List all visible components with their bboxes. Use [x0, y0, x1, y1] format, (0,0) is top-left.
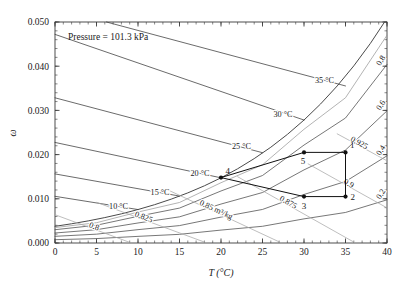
curve-label-25C: 25 °C	[232, 142, 252, 151]
curve-label-30C: 30 °C	[273, 110, 293, 119]
curve-rh-0.4	[55, 156, 387, 237]
curve-label-10C: 10 °C	[109, 202, 129, 211]
curve-rh-0.8	[55, 64, 387, 229]
psychrometric-chart: 0.80.80.8250.8250.85 m³/kg0.85 m³/kg0.87…	[0, 0, 406, 284]
x-tick-label: 35	[341, 247, 351, 257]
y-axis-title: ω	[7, 129, 18, 136]
x-tick-label: 25	[258, 247, 268, 257]
x-tick-label: 20	[216, 247, 226, 257]
x-tick-label: 0	[53, 247, 58, 257]
state-point-2	[343, 194, 347, 198]
state-point-5	[302, 150, 306, 154]
x-tick-label: 10	[133, 247, 143, 257]
curve-wetbulb-30	[55, 34, 304, 120]
y-tick-label: 0.020	[28, 150, 50, 160]
curve-volume-0.875	[238, 177, 356, 243]
x-tick-label: 40	[382, 247, 392, 257]
y-tick-label: 0.000	[28, 238, 50, 248]
y-tick-label: 0.050	[28, 17, 50, 27]
x-tick-label: 30	[299, 247, 309, 257]
curve-label-35C: 35 °C	[315, 76, 335, 85]
curve-label-0.6: 0.6	[374, 98, 387, 111]
chart-canvas: 0.80.80.8250.8250.85 m³/kg0.85 m³/kg0.87…	[0, 0, 406, 284]
volume-label-volume-0.9: 0.9	[342, 177, 355, 190]
curve-label-20C: 20 °C	[190, 169, 210, 178]
y-tick-label: 0.030	[28, 106, 50, 116]
process-4-to-5	[221, 152, 304, 177]
x-tick-label: 5	[94, 247, 99, 257]
y-tick-label: 0.040	[28, 62, 50, 72]
state-point-label-4: 4	[226, 166, 231, 176]
state-point-1	[343, 150, 347, 154]
tick-labels: 05101520253035400.0000.0100.0200.0300.04…	[28, 17, 392, 257]
x-axis-title: T (°C)	[208, 267, 234, 279]
curve-rh-0.925	[55, 35, 387, 227]
state-point-3	[302, 194, 306, 198]
y-tick-label: 0.010	[28, 194, 50, 204]
state-point-4	[219, 175, 223, 179]
state-point-label-1: 1	[350, 140, 355, 150]
curve-label-0.8: 0.8	[374, 54, 387, 67]
chart-curves: 0.80.80.8250.8250.85 m³/kg0.85 m³/kg0.87…	[55, 22, 387, 243]
curve-label-15C: 15 °C	[151, 188, 171, 197]
state-point-label-3: 3	[302, 201, 307, 211]
state-point-label-5: 5	[301, 156, 306, 166]
process-3-to-4	[221, 178, 304, 197]
x-tick-label: 15	[175, 247, 185, 257]
state-point-label-2: 2	[351, 192, 356, 202]
curve-rh-0.2	[55, 200, 387, 240]
pressure-annotation: Pressure = 101.3 kPa	[68, 32, 149, 42]
volume-label-volume-0.875: 0.875	[278, 194, 298, 211]
